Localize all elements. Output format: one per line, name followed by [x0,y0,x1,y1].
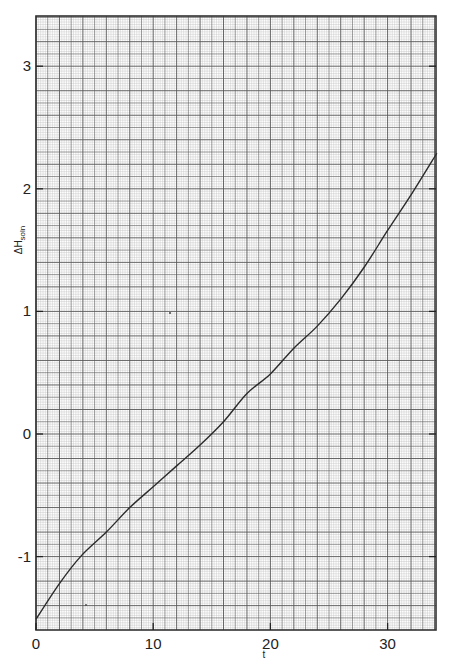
y-tick-label: 1 [23,302,31,319]
grid-major [36,16,436,630]
svg-text:ΔHsoln: ΔHsoln [13,226,27,255]
y-tick-label: 3 [23,57,31,74]
x-tick-labels: 0102030 [32,635,396,652]
x-tick-label: 30 [379,635,396,652]
y-tick-labels: -10123 [18,57,31,564]
y-tick-label: 2 [23,180,31,197]
paper-speck [85,604,87,606]
x-tick-label: 0 [32,635,40,652]
y-tick-label: 0 [23,425,31,442]
y-tick-label: -1 [18,548,31,565]
chart: -10123 0102030 t ΔHsoln [0,0,449,665]
y-axis-label: ΔHsoln [13,226,27,255]
paper-speck [169,312,171,314]
x-axis-label: t [263,649,266,660]
x-tick-label: 10 [145,635,162,652]
